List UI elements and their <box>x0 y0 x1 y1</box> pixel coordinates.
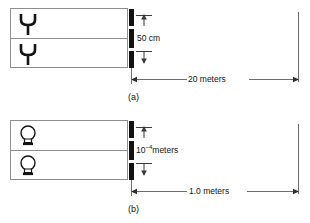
separation-label-a: 50 cm <box>137 33 160 43</box>
separation-label-b: 10−4meters <box>136 145 178 155</box>
aperture-bar-a-middle <box>129 29 134 48</box>
separation-unit-b: meters <box>152 145 178 155</box>
aperture-bar-a-bottom <box>129 51 134 68</box>
extension-line-a-right <box>298 12 299 82</box>
source-box-a-1 <box>10 8 128 38</box>
aperture-bar-b-middle <box>129 141 134 160</box>
source-box-b-2 <box>10 150 128 180</box>
source-box-stack-a <box>10 8 128 68</box>
panel-a: 50 cm 20 meters (a) <box>0 0 310 110</box>
light-bulb-icon <box>17 154 39 178</box>
light-bulb-icon <box>17 124 39 148</box>
source-box-b-1 <box>10 120 128 150</box>
distance-label-a: 20 meters <box>188 74 226 84</box>
panel-caption-a: (a) <box>128 92 139 102</box>
panel-b: 10−4meters 1.0 meters (b) <box>0 112 310 222</box>
aperture-bar-b-bottom <box>129 163 134 180</box>
panel-caption-b: (b) <box>128 204 139 214</box>
aperture-bar-a-top <box>129 9 134 26</box>
antenna-icon <box>17 42 39 66</box>
source-box-stack-b <box>10 120 128 180</box>
source-box-a-2 <box>10 38 128 68</box>
separation-arrow-b-up <box>136 125 154 139</box>
physics-diagram: 50 cm 20 meters (a) <box>0 0 310 223</box>
separation-arrow-b-down <box>136 163 154 177</box>
separation-arrow-a-up <box>136 13 154 27</box>
extension-line-b-right <box>298 124 299 194</box>
distance-label-b: 1.0 meters <box>189 186 229 196</box>
aperture-bar-b-top <box>129 121 134 138</box>
separation-arrow-a-down <box>136 51 154 65</box>
antenna-icon <box>17 12 39 36</box>
